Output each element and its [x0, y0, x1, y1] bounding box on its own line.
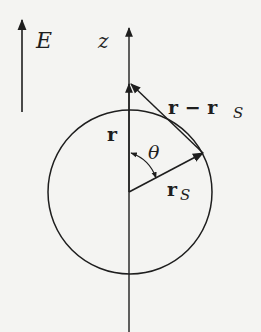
diagram-canvas: E z r r S r − r S θ: [0, 0, 261, 332]
vector-rs-label: r S: [167, 178, 190, 204]
svg-text:r: r: [167, 178, 178, 200]
vector-diff-subscript: S: [233, 104, 243, 122]
vector-r-label: r: [107, 123, 118, 145]
vector-rs: [129, 153, 203, 192]
z-axis-label: z: [97, 29, 109, 53]
field-label: E: [35, 28, 52, 53]
svg-text:r − r: r − r: [168, 96, 218, 118]
vector-rs-subscript: S: [180, 186, 190, 204]
vector-r-minus-rs: [131, 84, 203, 153]
vector-diff-label: r − r S: [168, 96, 243, 122]
angle-label: θ: [148, 141, 160, 163]
